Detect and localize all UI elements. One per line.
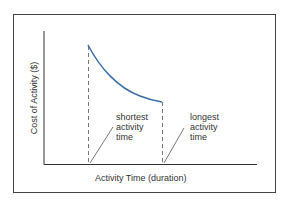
- longest-leader-line: [164, 128, 184, 163]
- diagram-canvas: Cost of Activity ($): [0, 0, 283, 200]
- shortest-line-2: activity: [116, 122, 148, 132]
- cost-curve: [88, 45, 162, 102]
- shortest-annotation: shortest activity time: [116, 112, 148, 142]
- frame-border: [14, 15, 276, 193]
- x-axis-label: Activity Time (duration): [95, 173, 187, 183]
- longest-annotation: longest activity time: [190, 112, 219, 142]
- longest-line-2: activity: [190, 122, 219, 132]
- shortest-leader-line: [90, 127, 113, 163]
- y-axis-label: Cost of Activity ($): [29, 62, 39, 135]
- shortest-line-1: shortest: [116, 112, 148, 122]
- longest-line-3: time: [190, 132, 219, 142]
- longest-line-1: longest: [190, 112, 219, 122]
- shortest-line-3: time: [116, 132, 148, 142]
